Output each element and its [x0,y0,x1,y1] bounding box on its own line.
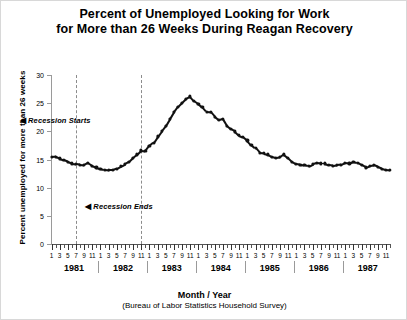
x-tick-mark [109,244,110,250]
x-tick-mark [162,244,163,248]
x-tick-mark [251,244,252,248]
x-tick-mark [166,244,167,250]
x-tick-mark [137,244,138,248]
x-tick-mark [88,244,89,248]
x-tick-mark [158,244,159,250]
data-point [319,162,322,165]
x-tick-mark [276,244,277,248]
x-axis-year-label: 1986 [309,263,329,273]
x-tick-label-month: 3 [205,252,209,259]
x-tick-label-month: 11 [187,252,194,259]
x-tick-label-month: 11 [334,252,341,259]
x-tick-label-month: 1 [50,252,54,259]
x-tick-mark [211,244,212,248]
x-tick-mark [96,244,97,248]
data-point [152,141,155,144]
y-axis-title: Percent unemployed for more than 26 week… [18,63,27,253]
x-tick-mark [113,244,114,248]
x-tick-label-month: 9 [131,252,135,259]
x-tick-mark [260,244,261,248]
x-tick-mark [378,244,379,250]
data-point [217,118,220,121]
data-point [144,149,147,152]
y-tick-label: 30 [36,72,44,79]
x-tick-mark [215,244,216,250]
x-tick-mark [325,244,326,248]
x-tick-mark [247,244,248,250]
x-tick-label-month: 5 [66,252,70,259]
x-tick-label-month: 7 [172,252,176,259]
x-tick-mark [129,244,130,248]
x-axis-year-label: 1987 [358,263,378,273]
recession-end-annotation: ◀Recession Ends [85,203,152,211]
data-point [278,156,281,159]
data-point [368,164,371,167]
x-tick-label-month: 1 [343,252,347,259]
x-tick-label-month: 3 [254,252,258,259]
x-tick-mark [296,244,297,250]
left-arrow-icon: ◀ [85,202,91,211]
x-axis-year-label: 1984 [211,263,231,273]
x-tick-label-month: 1 [246,252,250,259]
x-tick-mark [313,244,314,250]
y-tick-label: 10 [36,184,44,191]
x-tick-mark [353,244,354,250]
x-tick-mark [125,244,126,250]
plot-area: 051015202530 135791113579111357911135791… [51,75,391,244]
data-point [331,164,334,167]
x-tick-mark [80,244,81,248]
year-separator [98,261,99,273]
left-arrow-icon: ◀ [20,116,26,125]
x-tick-mark [56,244,57,248]
data-point [364,166,367,169]
x-tick-mark [190,244,191,250]
x-tick-label-month: 3 [58,252,62,259]
data-point [168,117,171,120]
x-tick-mark [321,244,322,250]
x-tick-mark [64,244,65,248]
x-tick-mark [317,244,318,248]
x-tick-label-month: 11 [138,252,145,259]
chart-title-line-1: Percent of Unemployed Looking for Work [1,7,407,22]
x-tick-mark [268,244,269,248]
x-tick-mark [292,244,293,248]
x-tick-label-month: 11 [236,252,243,259]
data-point [311,162,314,165]
data-point [176,105,179,108]
data-point [344,161,347,164]
data-point [389,169,392,172]
x-tick-label-month: 3 [156,252,160,259]
data-point [119,165,122,168]
x-tick-mark [149,244,150,250]
y-tick-mark [47,75,52,76]
x-tick-mark [243,244,244,248]
x-tick-mark [235,244,236,248]
x-tick-mark [52,244,53,250]
x-tick-mark [390,244,391,248]
x-tick-mark [374,244,375,248]
x-axis-title: Month / Year [1,290,407,301]
x-tick-mark [60,244,61,250]
x-tick-mark [194,244,195,248]
x-tick-mark [227,244,228,248]
x-tick-mark [349,244,350,248]
x-tick-mark [178,244,179,248]
data-point [348,162,351,165]
x-tick-label-month: 7 [319,252,323,259]
x-tick-mark [133,244,134,250]
recession-start-annotation: ◀Recession Starts [20,117,91,125]
chart-title-line-2: for More than 26 Weeks During Reagan Rec… [1,22,407,37]
x-tick-label-month: 9 [376,252,380,259]
year-separator [147,261,148,273]
x-tick-mark [304,244,305,250]
x-tick-label-month: 3 [107,252,111,259]
data-point [307,165,310,168]
x-tick-mark [202,244,203,248]
x-tick-label-month: 11 [383,252,390,259]
x-tick-mark [358,244,359,248]
x-tick-mark [264,244,265,250]
data-point [83,164,86,167]
y-tick-mark [47,131,52,132]
data-point [50,156,53,159]
x-tick-mark [170,244,171,248]
